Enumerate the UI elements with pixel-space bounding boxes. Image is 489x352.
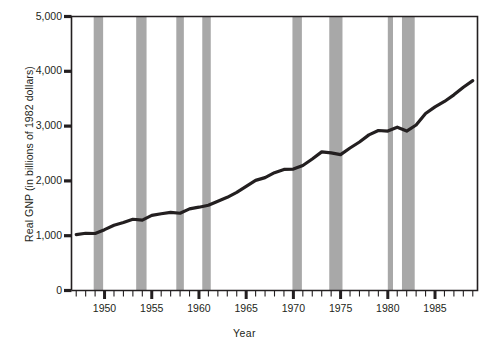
recession-band — [176, 17, 184, 291]
recession-bands-group — [94, 17, 415, 291]
recession-band — [292, 17, 301, 291]
plot-frame — [72, 17, 478, 291]
recession-band — [388, 17, 393, 291]
plot-border — [72, 17, 478, 291]
plot-area — [0, 0, 489, 352]
recession-band — [136, 17, 146, 291]
recession-band — [402, 17, 415, 291]
recession-band — [94, 17, 103, 291]
recession-band — [202, 17, 210, 291]
gnp-recession-chart: Real GNP (in billions of 1982 dollars) Y… — [0, 0, 489, 352]
